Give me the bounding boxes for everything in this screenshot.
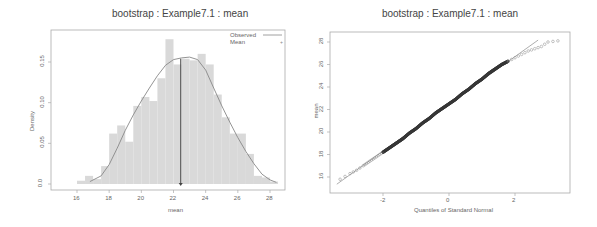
histogram-y-tick: 0.10 — [39, 96, 45, 108]
histogram-bar — [182, 59, 190, 184]
histogram-x-tick: 16 — [73, 195, 80, 201]
histogram-x-tick: 18 — [105, 195, 112, 201]
qq-point — [524, 51, 527, 54]
qq-y-tick: 16 — [318, 173, 324, 180]
histogram-bar — [109, 134, 117, 184]
legend-mean-label: Mean — [230, 39, 245, 46]
histogram-x-tick: 24 — [202, 195, 209, 201]
qq-x-tick: 2 — [512, 197, 515, 203]
histogram-bar — [133, 106, 141, 184]
qq-y-tick: 24 — [318, 83, 324, 90]
histogram-y-tick: 0.15 — [39, 55, 45, 67]
histogram-bar — [222, 117, 230, 184]
histogram-bar — [214, 95, 222, 184]
qq-point — [527, 50, 530, 53]
histogram-bar — [85, 176, 93, 184]
qq-x-axis-label: Quantiles of Standard Normal — [414, 207, 493, 213]
qq-point — [530, 49, 533, 52]
histogram-bar — [157, 78, 165, 184]
qq-point — [557, 40, 560, 43]
legend-observed-label: Observed — [230, 32, 256, 39]
histogram-bar — [262, 177, 270, 184]
histogram-bar — [125, 142, 133, 184]
qq-plot — [298, 0, 597, 227]
histogram-bar — [77, 181, 85, 184]
histogram-bar — [238, 134, 246, 184]
mean-marker-icon — [179, 183, 183, 186]
histogram-x-axis-label: mean — [168, 207, 183, 213]
qq-point — [547, 41, 550, 44]
histogram-x-tick: 20 — [137, 195, 144, 201]
qq-y-tick: 20 — [318, 128, 324, 135]
histogram-bar — [117, 125, 125, 184]
histogram-bar — [141, 97, 149, 184]
histogram-bar — [206, 64, 214, 184]
histogram-x-tick: 28 — [266, 195, 273, 201]
qq-point — [552, 40, 555, 43]
histogram-bar — [230, 134, 238, 184]
histogram-y-tick: 0.05 — [39, 136, 45, 148]
histogram-bar — [149, 101, 157, 184]
histogram-panel: bootstrap : Example7.1 : mean + mean Den… — [0, 0, 298, 227]
histogram-x-tick: 22 — [170, 195, 177, 201]
qq-point — [520, 53, 523, 56]
qq-y-tick: 28 — [318, 38, 324, 45]
qq-point — [517, 55, 520, 58]
qq-y-tick: 22 — [318, 105, 324, 112]
qq-plot-panel: bootstrap : Example7.1 : mean Quantiles … — [298, 0, 597, 227]
qq-point — [540, 45, 543, 48]
qq-point — [537, 46, 540, 49]
histogram-x-tick: 26 — [234, 195, 241, 201]
histogram-bar — [101, 166, 109, 184]
qq-x-tick: 0 — [446, 197, 449, 203]
qq-y-tick: 18 — [318, 150, 324, 157]
qq-point — [534, 47, 537, 50]
qq-point — [339, 178, 342, 181]
legend-mean-symbol-icon: + — [280, 39, 283, 45]
qq-point — [344, 175, 347, 178]
histogram-y-axis-label: Density — [29, 111, 35, 131]
qq-x-tick: -2 — [380, 197, 385, 203]
histogram-bar — [190, 60, 198, 184]
histogram-bar — [246, 154, 254, 184]
histogram-y-tick: 0.0 — [37, 179, 43, 187]
histogram-bar — [198, 54, 206, 184]
histogram-bar — [254, 176, 262, 184]
qq-y-tick: 26 — [318, 60, 324, 67]
qq-point — [543, 43, 546, 46]
